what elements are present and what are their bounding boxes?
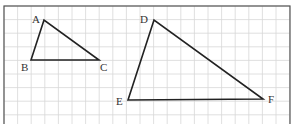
vertex-label-d: D <box>140 14 148 25</box>
vertex-label-b: B <box>21 62 28 73</box>
vertex-label-f: F <box>268 94 274 105</box>
grid-figure <box>0 0 300 124</box>
vertex-label-e: E <box>116 96 123 107</box>
triangle-abc <box>31 20 99 60</box>
vertex-label-c: C <box>100 62 107 73</box>
vertex-label-a: A <box>32 14 40 25</box>
